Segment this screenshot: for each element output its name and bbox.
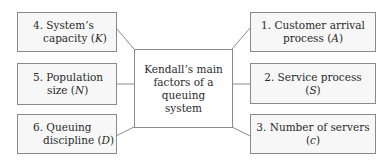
factor-label-line1: 4. System’s <box>33 19 116 32</box>
factor-box-arrival: 1. Customer arrival process (A) <box>250 12 376 52</box>
factor-symbol: N <box>75 84 84 96</box>
connector-discipline <box>116 127 134 136</box>
factor-label-line2: capacity <box>43 32 88 44</box>
factor-box-service: 2. Service process (S) <box>250 63 376 104</box>
factor-label-line1: 5. Population <box>33 71 116 84</box>
factor-symbol: K <box>95 32 103 44</box>
factor-symbol: D <box>102 134 110 146</box>
center-line-1: Kendall’s main <box>135 63 232 76</box>
factor-symbol: c <box>310 134 316 146</box>
central-concept-box: Kendall’s main factors of a queuing syst… <box>134 49 233 128</box>
center-line-4: system <box>135 102 232 115</box>
factor-box-servers: 3. Number of servers (c) <box>250 114 376 154</box>
factor-label-line1: 6. Queuing <box>33 121 116 134</box>
connector-servers <box>232 127 250 136</box>
connector-capacity <box>116 28 134 49</box>
connector-arrival <box>232 28 250 49</box>
factor-label-line1: 3. Number of servers <box>251 121 375 134</box>
factor-box-discipline: 6. Queuing discipline (D) <box>17 114 117 154</box>
factor-label-line1: 2. Service process <box>251 71 375 84</box>
factor-label-line2: process <box>283 32 324 44</box>
factor-label-line2: discipline <box>43 134 94 146</box>
factor-symbol: S <box>309 84 316 96</box>
factor-box-population: 5. Population size (N) <box>17 63 117 105</box>
factor-label-line1: 1. Customer arrival <box>251 19 375 32</box>
factor-label-line2: size <box>47 84 68 96</box>
factor-symbol: A <box>331 32 339 44</box>
center-line-2: factors of a <box>135 76 232 89</box>
factor-box-capacity: 4. System’s capacity (K) <box>17 12 117 52</box>
center-line-3: queuing <box>135 89 232 102</box>
